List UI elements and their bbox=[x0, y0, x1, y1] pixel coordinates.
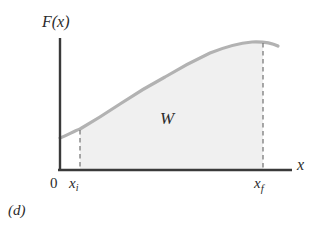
y-axis-label-close-paren: ) bbox=[64, 13, 69, 30]
tick-label-x-final: xf bbox=[254, 176, 264, 194]
y-axis-label: F(x) bbox=[42, 14, 70, 30]
panel-caption-letter: d bbox=[13, 202, 21, 218]
panel-caption: (d) bbox=[8, 203, 26, 218]
tick-label-x-final-sub: f bbox=[261, 182, 264, 194]
work-region-label: W bbox=[160, 110, 174, 127]
origin-label: 0 bbox=[50, 176, 58, 191]
shaded-work-area bbox=[80, 42, 263, 170]
tick-label-x-initial-var: x bbox=[69, 175, 76, 191]
tick-label-x-initial: xi bbox=[69, 176, 79, 193]
tick-label-x-final-var: x bbox=[254, 175, 261, 191]
tick-label-x-initial-sub: i bbox=[76, 182, 79, 193]
y-axis-label-function: F bbox=[42, 13, 52, 30]
x-axis-label: x bbox=[297, 157, 304, 173]
panel-caption-close-paren: ) bbox=[21, 202, 26, 218]
force-vs-position-figure: F(x) x 0 xi xf W (d) bbox=[0, 0, 329, 236]
